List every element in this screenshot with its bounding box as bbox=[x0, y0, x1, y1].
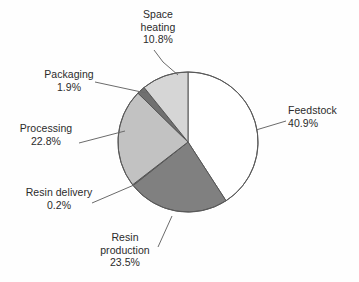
leader-line-feedstock bbox=[256, 121, 286, 130]
slice-label-packaging: Packaging 1.9% bbox=[36, 68, 102, 93]
leader-line-space-heating bbox=[154, 50, 178, 75]
slice-value-resin-delivery: 0.2% bbox=[14, 199, 104, 212]
slice-label-feedstock: Feedstock 40.9% bbox=[288, 104, 359, 129]
slice-value-processing: 22.8% bbox=[10, 135, 82, 148]
slice-label-feedstock-line1: Feedstock bbox=[288, 104, 359, 117]
slice-label-resin-production-line2: production bbox=[86, 244, 164, 257]
leader-line-packaging bbox=[95, 82, 146, 93]
slice-label-resin-delivery: Resin delivery 0.2% bbox=[14, 186, 104, 211]
slice-label-processing-line1: Processing bbox=[10, 122, 82, 135]
slice-label-processing: Processing 22.8% bbox=[10, 122, 82, 147]
slice-value-space-heating: 10.8% bbox=[121, 33, 195, 46]
slice-value-packaging: 1.9% bbox=[36, 81, 102, 94]
slice-label-space-heating: Space heating 10.8% bbox=[121, 8, 195, 46]
pie-chart-figure: Space heating 10.8% Feedstock 40.9% Pack… bbox=[0, 0, 359, 282]
slice-label-resin-production-line1: Resin bbox=[86, 231, 164, 244]
slice-label-space-heating-line1: Space bbox=[121, 8, 195, 21]
slice-label-space-heating-line2: heating bbox=[121, 21, 195, 34]
slice-label-packaging-line1: Packaging bbox=[36, 68, 102, 81]
slice-value-resin-production: 23.5% bbox=[86, 256, 164, 269]
slice-value-feedstock: 40.9% bbox=[288, 117, 359, 130]
slice-label-resin-production: Resin production 23.5% bbox=[86, 231, 164, 269]
slice-label-resin-delivery-line1: Resin delivery bbox=[14, 186, 104, 199]
